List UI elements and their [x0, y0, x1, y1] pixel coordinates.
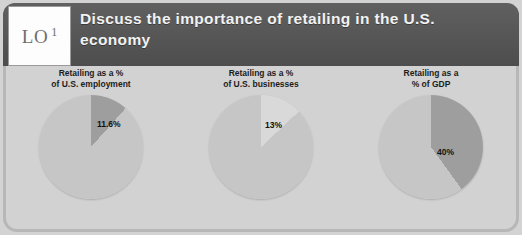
learning-objective-badge: LO 1	[8, 6, 71, 66]
pie-chart-graphic: 11.6%	[39, 95, 143, 199]
pie-chart-caption: Retailing as a % of GDP	[404, 68, 459, 91]
learning-objective-number: 1	[51, 26, 57, 38]
pie-slices	[209, 95, 313, 199]
learning-objective-inner: LO 1	[22, 27, 57, 46]
pie-slice-label: 13%	[265, 120, 282, 130]
pie-slice-label: 40%	[437, 147, 454, 157]
learning-objective-prefix: LO	[22, 27, 48, 46]
pie-slices	[379, 95, 483, 199]
pie-chart-graphic: 40%	[379, 95, 483, 199]
pie-chart-caption: Retailing as a % of U.S. businesses	[223, 68, 299, 91]
pie-chart-1: Retailing as a % of U.S. employment11.6%	[11, 68, 171, 199]
page-title: Discuss the importance of retailing in t…	[80, 9, 500, 50]
pie-chart-3: Retailing as a % of GDP40%	[351, 68, 511, 199]
pie-slices	[39, 95, 143, 199]
pie-slice-label: 11.6%	[97, 119, 121, 129]
pie-chart-2: Retailing as a % of U.S. businesses13%	[181, 68, 341, 199]
slide-canvas: LO 1 Discuss the importance of retailing…	[0, 0, 522, 235]
pie-chart-caption: Retailing as a % of U.S. employment	[51, 68, 130, 91]
pie-chart-row: Retailing as a % of U.S. employment11.6%…	[6, 68, 516, 228]
pie-chart-graphic: 13%	[209, 95, 313, 199]
